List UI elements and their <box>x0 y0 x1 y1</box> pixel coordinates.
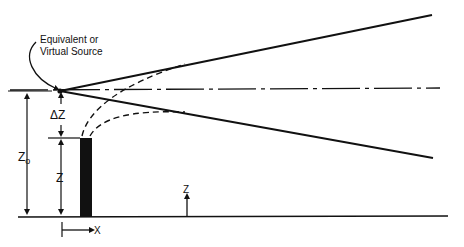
z0-label-main: Z <box>18 150 25 164</box>
z0-label-subscript: o <box>25 156 30 166</box>
annotation-line-1: Equivalent or <box>40 34 99 45</box>
delta-z-label: ΔZ <box>50 108 65 122</box>
annotation-line-2: Virtual Source <box>40 46 103 57</box>
x-axis-label: X <box>94 225 101 236</box>
z-axis-label: Z <box>183 184 189 195</box>
stack-height-label: Z <box>56 171 63 185</box>
virtual-source-point <box>57 88 62 93</box>
dashed-plume-rise-curve-lower <box>90 112 185 136</box>
dashed-plume-rise-curve-upper <box>82 64 185 136</box>
lower-plume-boundary <box>60 91 433 158</box>
plume-diagram: Equivalent or Virtual Source ΔZ Zo Z Z X <box>0 0 464 247</box>
z0-label: Zo <box>18 150 30 166</box>
stack <box>80 138 92 217</box>
upper-plume-boundary <box>60 15 432 91</box>
